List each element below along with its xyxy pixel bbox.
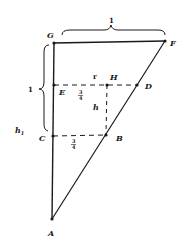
segment-hb-dashed	[106, 85, 107, 135]
label-d: D	[144, 81, 152, 91]
point-g	[52, 41, 55, 44]
left-brace	[39, 45, 49, 131]
segment-af	[52, 41, 165, 219]
fraction-lower: 3 4	[71, 138, 76, 150]
top-brace-label: 1	[109, 16, 114, 25]
label-c: C	[39, 133, 46, 143]
geometry-diagram: G F E H D C B A 1 1 h1 h r 3 4 3 4	[0, 0, 187, 249]
label-h: H	[109, 72, 118, 82]
left-brace-label: 1	[28, 85, 33, 94]
label-b: B	[115, 133, 123, 143]
r-label: r	[93, 72, 97, 81]
label-e: E	[58, 87, 66, 97]
point-a	[50, 217, 53, 220]
svg-text:4: 4	[72, 144, 76, 150]
point-b	[104, 133, 107, 136]
point-f	[163, 39, 166, 42]
h-label: h	[93, 102, 99, 112]
segment-cb-dashed	[53, 135, 106, 136]
segment-gf	[54, 41, 165, 43]
label-f: F	[169, 38, 177, 48]
point-h	[105, 83, 108, 86]
point-d	[135, 83, 138, 86]
svg-text:4: 4	[79, 95, 83, 101]
fraction-upper: 3 4	[78, 89, 83, 101]
label-a: A	[47, 228, 54, 238]
label-g: G	[47, 30, 54, 40]
top-brace	[62, 25, 165, 35]
segment-ga	[52, 43, 54, 219]
h1-label: h1	[15, 125, 24, 136]
point-e	[52, 83, 55, 86]
point-c	[51, 134, 54, 137]
